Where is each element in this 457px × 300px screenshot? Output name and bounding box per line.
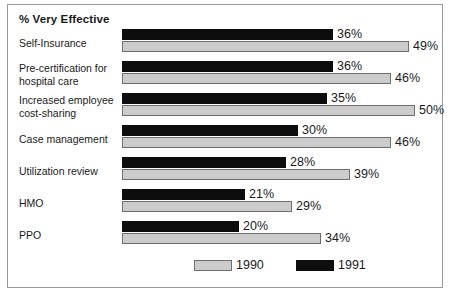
bar-group: PPO 20% 34% [8,221,442,251]
category-label-line2: cost-sharing [19,107,127,120]
category-label: Self-Insurance [19,37,127,50]
bar-1991[interactable] [122,157,286,168]
bar-group: HMO 21% 29% [8,189,442,219]
category-label-line2: hospital care [19,75,127,88]
bar-value-1991: 36% [337,27,362,41]
category-label: Utilization review [19,165,127,178]
bar-value-1990: 29% [296,199,321,213]
bar-1990[interactable] [122,137,391,148]
legend-label-1990: 1990 [236,257,264,273]
bar-group: Case management 30% 46% [8,125,442,155]
bar-value-1991: 28% [290,155,315,169]
bar-1990[interactable] [122,73,391,84]
category-label-line1: Increased employee [19,94,127,107]
category-label: Increased employee cost-sharing [19,94,127,119]
category-label-line1: PPO [19,229,127,242]
bar-group: Utilization review 28% 39% [8,157,442,187]
bar-value-1991: 36% [337,59,362,73]
category-label-line1: Utilization review [19,165,127,178]
category-label: HMO [19,197,127,210]
bar-1991[interactable] [122,93,327,104]
category-label: PPO [19,229,127,242]
bar-value-1991: 35% [331,91,356,105]
legend-swatch-1990 [194,260,232,271]
bar-1991[interactable] [122,221,239,232]
bar-value-1990: 46% [395,135,420,149]
bar-1990[interactable] [122,169,350,180]
bar-group: Pre-certification for hospital care 36% … [8,61,442,91]
bar-value-1991: 20% [243,219,268,233]
chart-legend: 1990 1991 [8,258,442,278]
bar-value-1990: 49% [413,39,438,53]
bar-value-1990: 34% [325,231,350,245]
category-label: Pre-certification for hospital care [19,62,127,87]
bar-1990[interactable] [122,233,321,244]
bar-1991[interactable] [122,189,245,200]
legend-label-1991: 1991 [338,257,366,273]
bar-1991[interactable] [122,29,333,40]
category-label-line1: Self-Insurance [19,37,127,50]
bar-1990[interactable] [122,105,415,116]
bar-value-1990: 46% [395,71,420,85]
bar-value-1991: 30% [302,123,327,137]
bar-1991[interactable] [122,61,333,72]
bar-value-1991: 21% [249,187,274,201]
plot-area: Self-Insurance 36% 49% Pre-certification… [8,5,442,287]
category-label-line1: Pre-certification for [19,62,127,75]
bar-value-1990: 39% [354,167,379,181]
category-label: Case management [19,133,127,146]
bar-1990[interactable] [122,201,292,212]
bar-value-1990: 50% [419,103,444,117]
category-label-line1: Case management [19,133,127,146]
bar-1991[interactable] [122,125,298,136]
category-label-line1: HMO [19,197,127,210]
bar-group: Self-Insurance 36% 49% [8,29,442,59]
bar-group: Increased employee cost-sharing 35% 50% [8,93,442,123]
chart-container: % Very Effective Self-Insurance 36% 49% … [7,4,443,288]
legend-swatch-1991 [296,260,334,271]
bar-1990[interactable] [122,41,409,52]
